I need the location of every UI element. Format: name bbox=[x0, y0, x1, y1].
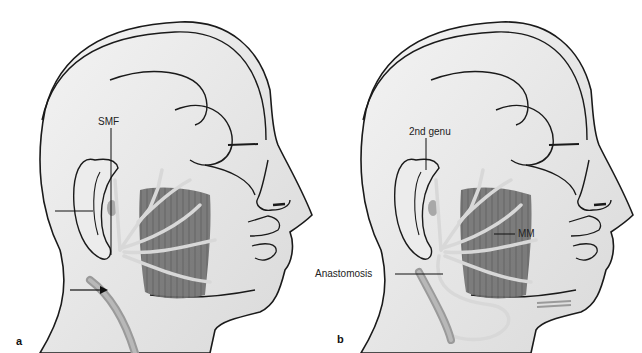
head-profile-illustration-b bbox=[321, 0, 642, 353]
panel-letter-a: a bbox=[16, 335, 22, 347]
panel-b: 2nd genu MM Anastomosis b bbox=[321, 0, 642, 353]
panel-a: SMF a bbox=[0, 0, 321, 353]
panel-letter-b: b bbox=[337, 333, 344, 345]
head-profile-illustration-a bbox=[0, 0, 321, 353]
label-smf: SMF bbox=[98, 117, 119, 127]
label-second-genu: 2nd genu bbox=[409, 127, 451, 137]
label-mm: MM bbox=[518, 229, 535, 239]
label-anastomosis: Anastomosis bbox=[315, 269, 372, 279]
